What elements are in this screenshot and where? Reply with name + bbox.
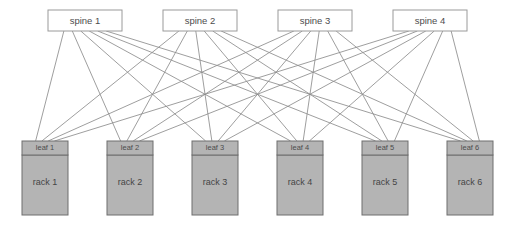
topology-link [451, 31, 479, 141]
link-layer [36, 31, 480, 141]
leaf-label: leaf 3 [206, 143, 224, 152]
leaf-rack-group-1[interactable]: rack 1leaf 1 [22, 141, 68, 215]
spine-label: spine 2 [185, 15, 216, 26]
leaf-rack-group-3[interactable]: rack 3leaf 3 [192, 141, 238, 215]
spine-node-1[interactable]: spine 1 [48, 10, 122, 31]
topology-link [394, 31, 442, 141]
topology-link [309, 31, 434, 141]
topology-link [139, 31, 417, 141]
spine-label: spine 1 [70, 15, 101, 26]
rack-label: rack 3 [203, 177, 228, 187]
topology-link [81, 31, 206, 141]
spine-node-2[interactable]: spine 2 [163, 10, 237, 31]
topology-link [72, 31, 120, 141]
leaf-rack-layer: rack 1leaf 1rack 2leaf 2rack 3leaf 3rack… [22, 141, 493, 215]
rack-label: rack 2 [118, 177, 143, 187]
leaf-label: leaf 1 [36, 143, 54, 152]
rack-label: rack 6 [458, 177, 483, 187]
topology-link [224, 31, 425, 141]
leaf-label: leaf 4 [291, 143, 309, 152]
rack-label: rack 1 [33, 177, 58, 187]
topology-link [303, 31, 319, 141]
leaf-label: leaf 6 [461, 143, 479, 152]
spine-label: spine 4 [415, 15, 446, 26]
leaf-rack-group-4[interactable]: rack 4leaf 4 [277, 141, 323, 215]
rack-label: rack 4 [288, 177, 313, 187]
topology-canvas: spine 1spine 2spine 3spine 4 rack 1leaf … [0, 0, 511, 225]
leaf-label: leaf 2 [121, 143, 139, 152]
leaf-label: leaf 5 [376, 143, 394, 152]
spine-label: spine 3 [300, 15, 331, 26]
topology-link [98, 31, 376, 141]
network-topology-diagram: spine 1spine 2spine 3spine 4 rack 1leaf … [0, 0, 511, 225]
topology-link [48, 31, 294, 141]
topology-link [89, 31, 290, 141]
spine-node-4[interactable]: spine 4 [393, 10, 467, 31]
leaf-rack-group-5[interactable]: rack 5leaf 5 [362, 141, 408, 215]
topology-link [36, 31, 64, 141]
topology-link [127, 31, 187, 141]
rack-label: rack 5 [373, 177, 398, 187]
leaf-rack-group-6[interactable]: rack 6leaf 6 [447, 141, 493, 215]
spine-node-3[interactable]: spine 3 [278, 10, 352, 31]
topology-link [328, 31, 388, 141]
spine-layer: spine 1spine 2spine 3spine 4 [48, 10, 467, 31]
topology-link [196, 31, 212, 141]
leaf-rack-group-2[interactable]: rack 2leaf 2 [107, 141, 153, 215]
